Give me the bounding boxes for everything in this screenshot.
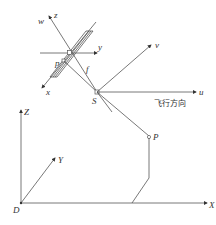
- v-axis: [97, 45, 151, 92]
- sensor-frame: w z y x p f: [38, 10, 102, 97]
- label-f: f: [86, 64, 90, 74]
- label-P: P: [152, 132, 159, 142]
- label-Z: Z: [24, 107, 30, 117]
- Y-axis: [21, 158, 55, 203]
- imaging-geometry-diagram: w z y x p f S u v 飞行方向 P Z Y X D: [0, 0, 216, 225]
- flight-direction-label: 飞行方向: [154, 98, 186, 108]
- label-y: y: [97, 42, 102, 52]
- label-S: S: [92, 96, 97, 106]
- label-x: x: [45, 87, 50, 97]
- principal-point-marker: [68, 51, 72, 55]
- label-p: p: [54, 58, 60, 68]
- label-Y: Y: [58, 155, 64, 165]
- origin-D-marker: [20, 202, 22, 204]
- label-u: u: [199, 87, 204, 97]
- platform-frame: S u v 飞行方向: [92, 40, 204, 112]
- label-w: w: [38, 16, 44, 26]
- label-z: z: [53, 10, 58, 20]
- s-lower-line: [97, 92, 112, 112]
- label-X: X: [208, 200, 215, 210]
- label-v: v: [155, 40, 159, 50]
- projection-path: [132, 138, 149, 203]
- line-of-sight: [97, 92, 149, 136]
- ground-path: P: [97, 92, 159, 203]
- world-frame: Z Y X D: [12, 107, 215, 215]
- label-D: D: [12, 205, 20, 215]
